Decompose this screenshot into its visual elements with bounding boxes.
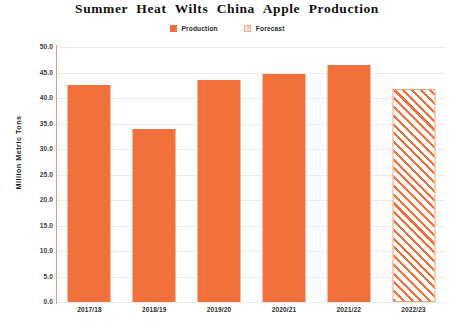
x-axis-tick-label: 2019/20: [187, 306, 252, 313]
bar-production[interactable]: [262, 74, 305, 302]
bar-slot: [381, 47, 446, 302]
legend-label-forecast: Forecast: [256, 25, 285, 32]
y-axis-tick-label: 10.0: [9, 247, 53, 254]
y-axis-tick-label: 30.0: [9, 145, 53, 152]
legend-label-production: Production: [182, 25, 218, 32]
x-axis-tick-label: 2020/21: [252, 306, 317, 313]
legend-item-forecast[interactable]: Forecast: [244, 25, 285, 32]
y-axis-tick-label: 25.0: [9, 171, 53, 178]
bar-slot: [316, 47, 381, 302]
bar-production[interactable]: [198, 80, 241, 302]
y-axis-tick-label: 15.0: [9, 222, 53, 229]
x-axis-tick-label: 2017/18: [57, 306, 122, 313]
x-axis-tick-label: 2018/19: [122, 306, 187, 313]
x-axis-tick-label: 2021/22: [316, 306, 381, 313]
bar-slot: [252, 47, 317, 302]
chart-figure: Summer Heat Wilts China Apple Production…: [0, 0, 454, 329]
y-axis-tick-label: 45.0: [9, 69, 53, 76]
y-axis-tick-label: 40.0: [9, 94, 53, 101]
bar-production[interactable]: [68, 85, 111, 302]
y-axis-tick-labels: 50.045.040.035.030.025.020.015.010.05.00…: [4, 47, 53, 302]
gridline: [57, 302, 446, 303]
y-axis-tick-label: 0.0: [9, 298, 53, 305]
bar-forecast[interactable]: [392, 89, 435, 302]
legend-swatch-production-icon: [170, 25, 177, 32]
y-axis-tick-label: 50.0: [9, 43, 53, 50]
chart-title: Summer Heat Wilts China Apple Production: [0, 1, 454, 17]
bar-slot: [187, 47, 252, 302]
legend-item-production[interactable]: Production: [170, 25, 218, 32]
y-axis-tick-label: 5.0: [9, 273, 53, 280]
bar-slot: [122, 47, 187, 302]
y-axis-tick-label: 35.0: [9, 120, 53, 127]
x-axis-tick-labels: 2017/182018/192019/202020/212021/222022/…: [57, 306, 446, 322]
bar-production[interactable]: [327, 65, 370, 302]
x-axis-tick-label: 2022/23: [381, 306, 446, 313]
bar-production[interactable]: [133, 129, 176, 302]
y-axis-tick-label: 20.0: [9, 196, 53, 203]
bar-series-layer: [57, 47, 446, 302]
chart-legend: Production Forecast: [0, 25, 454, 32]
bar-slot: [57, 47, 122, 302]
legend-swatch-forecast-icon: [244, 25, 251, 32]
